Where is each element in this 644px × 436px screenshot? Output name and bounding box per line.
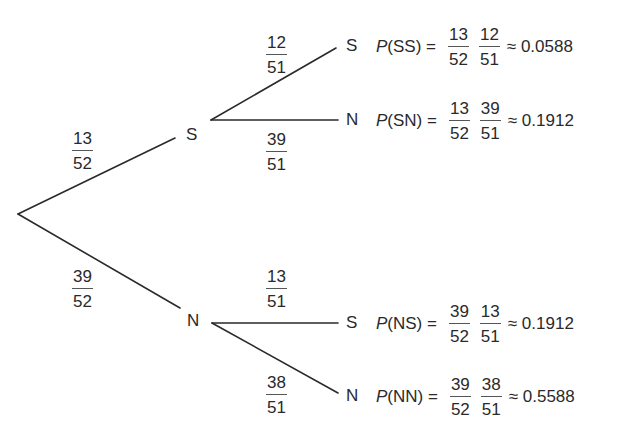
equation-NN: P(NN) = 3952 3851 ≈ 0.5588 (376, 374, 575, 420)
node-N-level1: N (187, 312, 199, 329)
prob-N-S: 13 51 (266, 268, 287, 310)
equation-SS: P(SS) = 1352 1251 ≈ 0.0588 (376, 24, 573, 70)
equation-NS: P(NS) = 3952 1351 ≈ 0.1912 (376, 301, 574, 347)
fraction: 3952 (450, 376, 471, 418)
prob-S-S: 12 51 (266, 34, 287, 76)
leaf-NN: N (346, 387, 358, 404)
fraction: 1352 (449, 100, 470, 142)
fraction: 3851 (481, 376, 502, 418)
prob-root-S: 13 52 (72, 130, 93, 172)
node-S-level1: S (186, 126, 197, 143)
prob-S-N: 39 51 (266, 131, 287, 173)
prob-N-N: 38 51 (266, 374, 287, 416)
equation-SN: P(SN) = 1352 3951 ≈ 0.1912 (376, 98, 574, 144)
fraction: 3951 (480, 100, 501, 142)
fraction: 1352 (448, 26, 469, 68)
leaf-SS: S (346, 37, 357, 54)
leaf-NS: S (346, 314, 357, 331)
fraction: 1351 (480, 303, 501, 345)
leaf-SN: N (346, 111, 358, 128)
branch-root-to-S (18, 138, 175, 214)
fraction: 3952 (449, 303, 470, 345)
branch-root-to-N (18, 214, 180, 308)
fraction: 1251 (479, 26, 500, 68)
prob-root-N: 39 52 (72, 268, 93, 310)
